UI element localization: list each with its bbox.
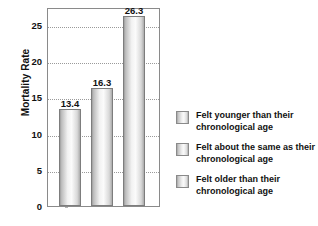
y-tick-label: 5: [20, 166, 42, 176]
bar: [59, 109, 81, 206]
bar-value-label: 26.3: [117, 6, 151, 16]
legend-item-label: Felt about the same as their chronologic…: [196, 142, 318, 165]
bar-value-label: 13.4: [53, 99, 87, 109]
legend-swatch-icon: [176, 143, 189, 156]
bar-value-label: 16.3: [85, 78, 119, 88]
legend-swatch-icon: [176, 175, 189, 188]
legend-item-label: Felt younger than their chronological ag…: [196, 110, 318, 133]
y-tick-label: 10: [20, 130, 42, 140]
plot-inner: 13.416.326.3: [48, 9, 159, 206]
y-tick-label: 25: [20, 21, 42, 31]
y-tick-label: 20: [20, 58, 42, 68]
y-tick-label: 15: [20, 94, 42, 104]
chart-legend: Felt younger than their chronological ag…: [176, 110, 318, 206]
legend-item[interactable]: Felt older than their chronological age: [176, 174, 318, 197]
plot-area: 13.416.326.3: [47, 8, 160, 207]
bar: [123, 16, 145, 206]
mortality-rate-bar-chart: Mortality Rate 2520151050 13.416.326.3 F…: [0, 0, 318, 226]
bar: [91, 88, 113, 206]
legend-item[interactable]: Felt younger than their chronological ag…: [176, 110, 318, 133]
y-axis-tick-labels: 2520151050: [20, 8, 42, 207]
legend-item[interactable]: Felt about the same as their chronologic…: [176, 142, 318, 165]
y-tick-label: 0: [20, 202, 42, 212]
legend-item-label: Felt older than their chronological age: [196, 174, 318, 197]
legend-swatch-icon: [176, 111, 189, 124]
